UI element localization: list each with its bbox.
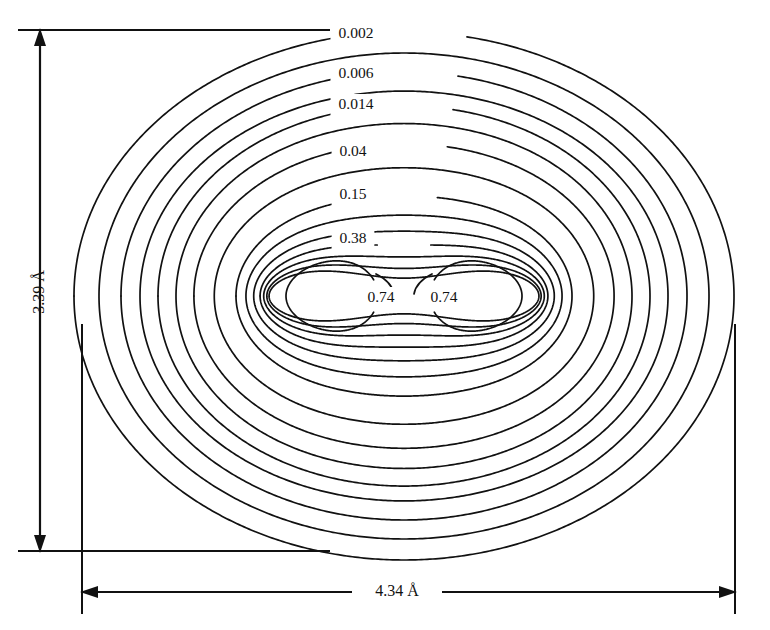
- contour-line-0.07: [214, 168, 593, 425]
- contour-lines-group: [74, 37, 734, 560]
- contour-line-0.004: [99, 53, 709, 539]
- contour-line-0.22: [246, 215, 562, 377]
- electron-density-figure: 3.39 Å 4.34 Å 0.0020.0060.0140.040.150.3…: [0, 0, 770, 630]
- contour-line-0.002: [74, 37, 341, 296]
- contour-label-0-74: 0.74: [367, 288, 394, 305]
- contour-plot: 3.39 Å 4.34 Å 0.0020.0060.0140.040.150.3…: [0, 0, 770, 630]
- contour-label-0-15: 0.15: [339, 185, 366, 202]
- contour-label-0-74: 0.74: [430, 288, 457, 305]
- contour-line-0.58: [267, 265, 541, 327]
- contour-label-0-04: 0.04: [339, 142, 366, 159]
- contour-label-0-006: 0.006: [339, 64, 374, 81]
- contour-label-0-002: 0.002: [339, 24, 374, 41]
- contour-line-0.006: [121, 76, 687, 520]
- contour-line-0.014: [158, 110, 355, 296]
- contour-line-0.022: [176, 124, 632, 469]
- contour-line-0.006: [121, 76, 350, 296]
- horizontal-dimension-label: 4.34 Å: [375, 582, 419, 599]
- contour-line-0.002: [74, 37, 734, 560]
- contour-line-0.014: [158, 110, 650, 486]
- contour-line-0.38: [260, 245, 548, 347]
- contour-line-0.3: [254, 231, 555, 361]
- vertical-dimension-label: 3.39 Å: [30, 270, 47, 314]
- contour-label-0-014: 0.014: [339, 95, 374, 112]
- contour-line-0.04: [194, 147, 614, 449]
- contour-line-0.66: [269, 271, 539, 321]
- contour-label-0-38: 0.38: [339, 229, 366, 246]
- contour-line-0.009: [140, 91, 668, 501]
